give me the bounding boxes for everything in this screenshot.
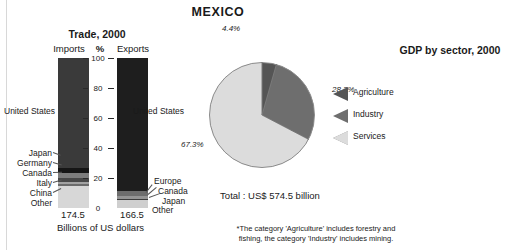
pie-slice-outlines [209, 62, 315, 168]
gdp-pie-chart [209, 62, 315, 168]
trade-chart-panel: Trade, 2000 Imports % Exports 100 80 60 [0, 0, 200, 250]
legend-item-services: Services [333, 128, 433, 150]
tick-dash-left-40 [83, 148, 88, 149]
imports-segment-other [58, 186, 89, 208]
tick-dash-right-60 [108, 118, 114, 119]
legend-item-agriculture: Agriculture [333, 84, 433, 106]
exports-segment-other [117, 200, 148, 208]
axis-tick-60: 60 [89, 114, 107, 123]
legend-label-industry: Industry [353, 109, 383, 119]
tick-dash-right-40 [108, 148, 114, 149]
axis-tick-100: 100 [89, 54, 107, 63]
exports-label-united-states: United States [133, 107, 185, 116]
axis-tick-20: 20 [89, 174, 107, 183]
imports-total-value: 174.5 [50, 209, 96, 220]
imports-stacked-bar [58, 58, 89, 208]
imports-label-united-states: United States [4, 107, 52, 116]
footnote: *The category 'Agriculture' includes for… [200, 224, 432, 244]
gdp-total-label: Total : US$ 574.5 billion [195, 190, 345, 201]
trade-chart-title: Trade, 2000 [22, 28, 172, 40]
tick-dash-left-60 [83, 118, 88, 119]
axis-tick-80: 80 [89, 84, 107, 93]
wedge-icon-industry [333, 109, 348, 123]
tick-dash-left-100 [83, 58, 88, 59]
exports-label-canada: Canada [158, 186, 188, 196]
axis-tick-40: 40 [89, 144, 107, 153]
tick-dash-right-100 [108, 58, 114, 59]
imports-label-other: Other [2, 198, 52, 208]
gdp-chart-panel: GDP by sector, 2000 4.4% 28.3% 67.3% Tot… [185, 0, 436, 250]
imports-label-japan: Japan [2, 148, 52, 158]
imports-label-italy: Italy [2, 178, 52, 188]
imports-label-china: China [2, 188, 52, 198]
tick-dash-right-20 [108, 178, 114, 179]
imports-label-germany: Germany [0, 158, 52, 168]
wedge-icon-agriculture [333, 87, 348, 101]
gdp-chart-title: GDP by sector, 2000 [375, 44, 505, 56]
tick-dash-right-80 [108, 88, 114, 89]
legend-label-services: Services [353, 131, 386, 141]
imports-segment-united-states [58, 58, 89, 168]
tick-dash-left-80 [83, 88, 88, 89]
pie-percent-agriculture: 4.4% [222, 24, 240, 33]
exports-column-header: Exports [108, 43, 158, 54]
percent-axis: 100 80 60 40 20 0 [89, 52, 107, 214]
exports-label-europe: Europe [154, 176, 181, 186]
wedge-icon-services [333, 131, 348, 145]
gdp-legend: Agriculture Industry Services [333, 84, 433, 150]
tick-dash-left-20 [83, 178, 88, 179]
exports-total-value: 166.5 [109, 209, 155, 220]
pie-percent-services: 67.3% [181, 140, 204, 149]
imports-label-canada: Canada [0, 168, 52, 178]
exports-segment-united-states [117, 58, 148, 191]
trade-axis-caption: Billions of US dollars [18, 222, 183, 233]
imports-column-header: Imports [46, 43, 92, 54]
exports-label-other: Other [152, 205, 173, 215]
exports-stacked-bar [117, 58, 148, 208]
footnote-line-1: *The category 'Agriculture' includes for… [200, 224, 432, 234]
legend-item-industry: Industry [333, 106, 433, 128]
legend-label-agriculture: Agriculture [353, 87, 394, 97]
footnote-line-2: fishing, the category 'Industry' include… [200, 234, 432, 244]
